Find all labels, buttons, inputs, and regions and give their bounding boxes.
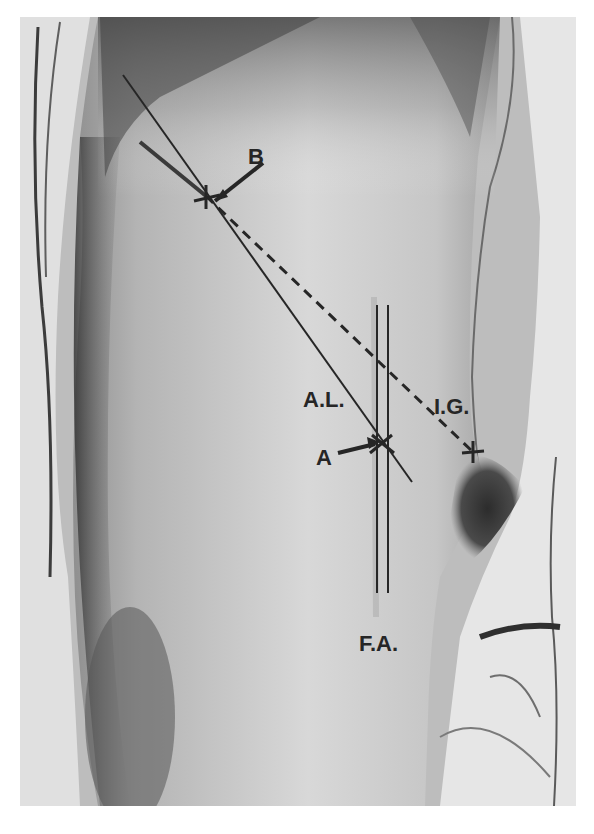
label-b: B (248, 146, 264, 168)
clinical-photograph: B A.L. I.G. A F.A. (20, 17, 576, 806)
label-al: A.L. (303, 389, 345, 411)
label-a: A (316, 447, 332, 469)
photo-illustration (20, 17, 576, 806)
label-fa: F.A. (359, 633, 398, 655)
label-ig: I.G. (434, 396, 469, 418)
